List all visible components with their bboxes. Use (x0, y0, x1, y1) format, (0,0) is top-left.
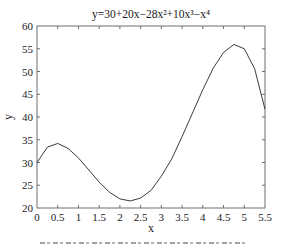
y-tick-label: 35 (22, 134, 34, 146)
line-chart: y=30+20x−28x²+10x³−x⁴ 00.511.522.533.544… (0, 0, 283, 245)
x-tick-label: 4 (200, 211, 206, 223)
x-tick-label: 1.5 (92, 211, 106, 223)
y-axis-label: y (1, 114, 15, 120)
x-tick-label: 2 (117, 211, 123, 223)
x-axis-label: x (148, 221, 154, 235)
chart-title: y=30+20x−28x²+10x³−x⁴ (92, 8, 210, 21)
x-tick-label: 3.5 (175, 211, 189, 223)
x-tick-label: 0 (34, 211, 40, 223)
x-tick-label: 2.5 (134, 211, 148, 223)
x-tick-label: 3 (159, 211, 165, 223)
x-tick-label: 0.5 (51, 211, 65, 223)
x-tick-label: 4.5 (217, 211, 231, 223)
x-tick-label: 5 (242, 211, 248, 223)
y-tick-label: 60 (22, 20, 34, 32)
y-tick-label: 55 (22, 43, 34, 55)
y-tick-label: 20 (22, 202, 34, 214)
x-tick-label: 5.5 (258, 211, 272, 223)
plot-area-frame (37, 26, 265, 208)
x-tick-label: 1 (76, 211, 82, 223)
figure-caption-cropped (40, 240, 245, 245)
y-tick-label: 45 (22, 88, 34, 100)
y-tick-label: 40 (22, 111, 34, 123)
y-tick-label: 30 (22, 157, 34, 169)
y-tick-label: 50 (22, 66, 34, 78)
y-tick-label: 25 (22, 179, 34, 191)
